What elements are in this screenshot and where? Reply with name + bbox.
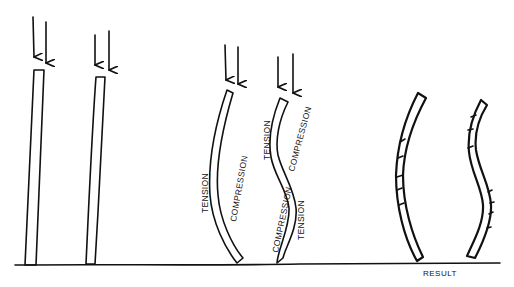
column-6 xyxy=(467,100,494,258)
column-2 xyxy=(86,31,109,264)
column-1 xyxy=(25,17,46,265)
column-4: TENSION COMPRESSION COMPRESSION TENSION xyxy=(262,54,313,263)
compression-label-lower: COMPRESSION xyxy=(270,186,294,254)
compression-label-upper: COMPRESSION xyxy=(286,105,313,172)
tension-label: TENSION xyxy=(200,173,210,213)
compression-label: COMPRESSION xyxy=(228,155,249,223)
column-5 xyxy=(396,93,426,261)
tension-label-upper: TENSION xyxy=(262,120,272,160)
tension-label-lower: TENSION xyxy=(296,200,306,240)
load-arrows-icon xyxy=(225,45,238,84)
load-arrows-icon xyxy=(33,17,46,63)
buckling-diagram: TENSION COMPRESSION TENSION COMPRESSION … xyxy=(0,0,514,287)
column-3: TENSION COMPRESSION xyxy=(200,45,250,263)
load-arrows-icon xyxy=(95,31,109,70)
result-label: RESULT xyxy=(423,269,457,278)
load-arrows-icon xyxy=(278,54,293,93)
